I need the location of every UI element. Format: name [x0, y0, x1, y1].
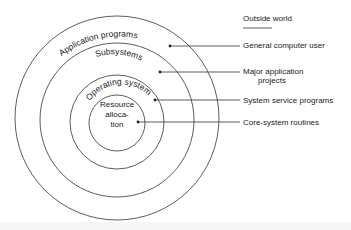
- dot-icon: [169, 45, 172, 48]
- core-label-line: tion: [100, 120, 134, 130]
- dot-icon: [159, 71, 162, 74]
- core-label: Resource alloca- tion: [100, 100, 134, 130]
- outside-world-heading: Outside world: [243, 14, 292, 23]
- core-label-line: alloca-: [100, 110, 134, 120]
- role-line: Major application: [243, 67, 303, 76]
- role-general-computer-user: General computer user: [243, 41, 325, 50]
- layered-system-diagram: Application programs Subsystems Operatin…: [0, 0, 351, 230]
- role-core-system-routines: Core-system routines: [243, 118, 319, 127]
- role-major-application-projects: Major application projects: [243, 67, 303, 85]
- role-system-service-programs: System service programs: [243, 96, 333, 105]
- ring-label-operating-system: Operating system: [84, 76, 154, 102]
- dot-icon: [154, 99, 157, 102]
- role-line: projects: [243, 76, 303, 85]
- core-label-line: Resource: [100, 100, 134, 110]
- ring-label-subsystems: Subsystems: [94, 46, 145, 62]
- dot-icon: [137, 121, 140, 124]
- bottom-margin: [0, 222, 351, 230]
